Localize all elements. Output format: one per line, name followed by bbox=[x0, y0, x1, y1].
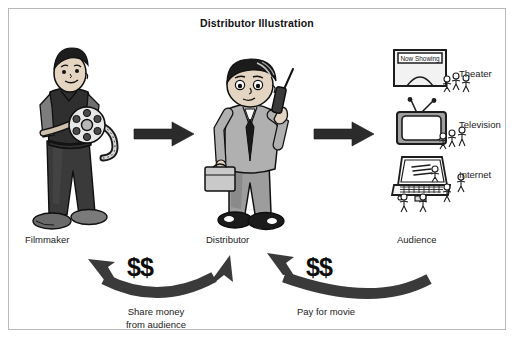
film-reel-icon bbox=[61, 101, 123, 159]
illustration-canvas: Distributor Illustration bbox=[0, 0, 516, 350]
illustration-panel: Distributor Illustration bbox=[8, 8, 506, 330]
distributor-figure bbox=[195, 57, 303, 237]
label-television: Television bbox=[459, 119, 501, 130]
money-symbol-share: $$ bbox=[127, 255, 153, 280]
label-theater: Theater bbox=[459, 68, 492, 79]
money-symbol-pay: $$ bbox=[306, 255, 332, 280]
arrow-filmmaker-to-distributor bbox=[134, 121, 196, 147]
caption-pay-for-movie: Pay for movie bbox=[271, 306, 381, 319]
television-audience-stick-figures bbox=[437, 127, 471, 149]
label-internet: Internet bbox=[459, 169, 491, 180]
page-title: Distributor Illustration bbox=[9, 17, 505, 29]
caption-share-money: Share money from audience bbox=[97, 306, 215, 331]
money-flow-arrows bbox=[9, 239, 507, 309]
theater-marquee-text: Now Showing bbox=[400, 55, 440, 63]
arrow-distributor-to-audience bbox=[314, 121, 376, 147]
